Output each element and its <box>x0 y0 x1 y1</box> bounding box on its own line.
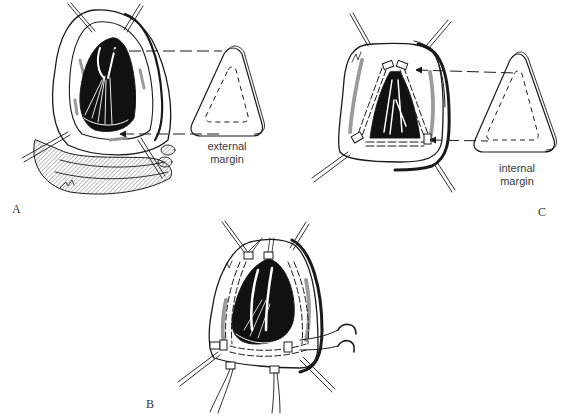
external-margin-caption-line2: margin <box>192 153 262 166</box>
panel-label-c: C <box>538 206 546 218</box>
panel-label-b: B <box>146 398 154 410</box>
panel-a-heart <box>22 3 175 194</box>
external-margin-caption: external margin <box>192 140 262 166</box>
internal-margin-caption-line1: internal <box>482 162 552 175</box>
panel-a-external-patch <box>191 46 265 136</box>
panel-b-heart <box>178 221 356 413</box>
internal-margin-caption: internal margin <box>482 162 552 188</box>
figure-illustration <box>0 0 561 420</box>
internal-margin-caption-line2: margin <box>482 175 552 188</box>
panel-c-internal-patch <box>474 52 557 152</box>
panel-c-heart <box>312 13 455 192</box>
surgical-figure: external margin internal margin A B C <box>0 0 561 420</box>
external-margin-caption-line1: external <box>192 140 262 153</box>
panel-label-a: A <box>12 203 21 215</box>
